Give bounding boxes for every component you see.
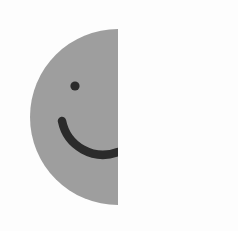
image-canvas: Half Smiley Face Left half of a gray cir…: [0, 0, 238, 231]
eye-icon: [70, 81, 79, 90]
half-smiley-figure: [0, 0, 238, 231]
